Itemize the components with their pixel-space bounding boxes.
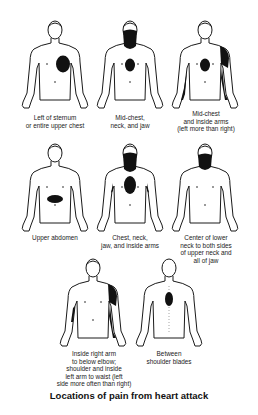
body-front-icon: [170, 141, 240, 233]
body-front-icon: [95, 141, 165, 233]
pain-area-upper-abdomen: [47, 195, 63, 203]
body-front-icon: [20, 18, 90, 110]
pain-area-chest: [124, 176, 136, 194]
caption-upper-abdomen: Upper abdomen: [20, 234, 90, 242]
body-back-icon: [134, 256, 204, 348]
body-front-icon: [170, 18, 240, 110]
pain-area-mid-chest: [200, 59, 210, 72]
figure-lower-neck-jaw: [170, 141, 240, 233]
diagram-title: Locations of pain from heart attack: [0, 390, 258, 401]
figure-left-of-sternum: [20, 18, 90, 110]
pain-area-left-chest: [56, 56, 70, 73]
pain-area-mid-chest: [125, 59, 135, 72]
body-front-icon: [95, 18, 165, 110]
pain-area-lower-neck-jaw: [198, 154, 212, 171]
caption-between-shoulder-blades: Between shoulder blades: [134, 350, 204, 365]
caption-mid-chest-neck-jaw: Mid-chest, neck, and jaw: [95, 114, 165, 129]
caption-chest-neck-jaw-arms: Chest, neck, jaw, and inside arms: [92, 234, 168, 249]
pain-area-neck-jaw: [123, 30, 137, 50]
body-front-icon: [20, 141, 90, 233]
caption-arms-shoulder-waist: Inside right arm to below elbow; shoulde…: [52, 350, 136, 388]
pain-area-between-shoulder-blades: [165, 292, 173, 306]
figure-arms-shoulder-waist: [58, 256, 128, 348]
figure-upper-abdomen: [20, 141, 90, 233]
figure-mid-chest-neck-jaw: [95, 18, 165, 110]
figure-mid-chest-inside-arms: [170, 18, 240, 110]
caption-mid-chest-inside-arms: Mid-chest and inside arms (left more tha…: [165, 110, 247, 133]
body-front-icon: [58, 256, 128, 348]
figure-between-shoulder-blades: [134, 256, 204, 348]
figure-chest-neck-jaw-arms: [95, 141, 165, 233]
pain-area-neck-jaw: [123, 153, 137, 173]
caption-left-of-sternum: Left of sternum or entire upper chest: [20, 114, 90, 129]
